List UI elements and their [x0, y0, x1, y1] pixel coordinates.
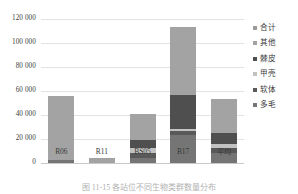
y-axis-tick-label: 20 000 — [0, 135, 36, 142]
legend-item-label: 其他 — [260, 39, 276, 47]
axis-baseline — [41, 163, 244, 164]
legend-item[interactable]: 其他 — [253, 36, 298, 52]
bar-group[interactable] — [48, 19, 74, 163]
legend-item-label: 合计 — [260, 24, 276, 32]
legend-swatch-icon — [253, 57, 257, 61]
legend-item-label: 甲壳 — [260, 70, 276, 78]
legend-swatch-icon — [253, 103, 257, 107]
bar-segment[interactable] — [211, 133, 237, 144]
legend-swatch-icon — [253, 72, 257, 76]
bar-group[interactable] — [211, 19, 237, 163]
bar-group[interactable] — [170, 19, 196, 163]
bar-segment[interactable] — [89, 158, 115, 163]
bar-segment[interactable] — [170, 129, 196, 131]
figure-caption: 图 11-15 各站位不同生物类群数量分布 — [0, 183, 298, 193]
y-axis-tick-label: 80 000 — [0, 63, 36, 70]
y-axis-tick-label: 120 000 — [0, 15, 36, 22]
bar-group[interactable] — [89, 19, 115, 163]
legend-item-label: 多毛 — [260, 101, 276, 109]
legend-item[interactable]: 软体 — [253, 82, 298, 98]
figure-container: 020 00040 00060 00080 000100 000120 000 … — [0, 0, 298, 194]
y-axis-tick-label: 40 000 — [0, 111, 36, 118]
plot-area — [41, 19, 244, 163]
bar-group[interactable] — [130, 19, 156, 163]
legend-item[interactable]: 棘皮 — [253, 51, 298, 67]
bar-segment[interactable] — [170, 27, 196, 95]
legend-item[interactable]: 多毛 — [253, 98, 298, 114]
y-axis-tick-label: 60 000 — [0, 87, 36, 94]
legend-item-label: 棘皮 — [260, 55, 276, 63]
chart-legend: 合计其他棘皮甲壳软体多毛 — [253, 20, 298, 113]
legend-item[interactable]: 合计 — [253, 20, 298, 36]
bar-segment[interactable] — [170, 95, 196, 129]
bar-segment[interactable] — [130, 158, 156, 163]
y-axis-tick-label: 0 — [0, 159, 36, 166]
legend-swatch-icon — [253, 26, 257, 30]
bar-segment[interactable] — [48, 160, 74, 163]
legend-item[interactable]: 甲壳 — [253, 67, 298, 83]
legend-swatch-icon — [253, 88, 257, 92]
legend-swatch-icon — [253, 41, 257, 45]
bar-segment[interactable] — [211, 99, 237, 133]
y-axis-tick-label: 100 000 — [0, 39, 36, 46]
bar-segment[interactable] — [170, 131, 196, 136]
bar-segment[interactable] — [130, 114, 156, 140]
x-axis-tick-label: 平均 — [189, 148, 259, 156]
legend-item-label: 软体 — [260, 86, 276, 94]
